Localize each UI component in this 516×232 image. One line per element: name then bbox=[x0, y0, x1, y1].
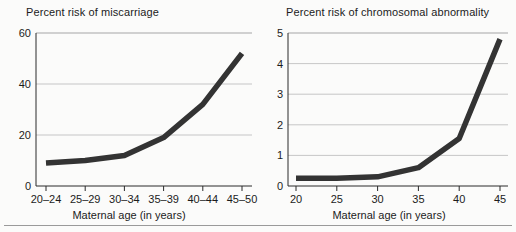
y-tick-label: 3 bbox=[277, 88, 283, 100]
x-tick-label: 40–44 bbox=[188, 193, 219, 205]
x-tick-label: 30 bbox=[371, 193, 383, 205]
x-tick-label: 45–50 bbox=[227, 193, 258, 205]
y-tick-label: 4 bbox=[277, 58, 283, 70]
plot-area-left: 020406020–2425–2930–3435–3940–4445–50 bbox=[0, 0, 258, 232]
bottom-divider bbox=[4, 225, 512, 226]
x-tick-label: 35–39 bbox=[148, 193, 179, 205]
x-tick-label: 25–29 bbox=[70, 193, 101, 205]
figure-panel-pair: Percent risk of miscarriage 020406020–24… bbox=[0, 0, 516, 232]
chart-panel-chromosomal: Percent risk of chromosomal abnormality … bbox=[258, 0, 516, 232]
x-tick-label: 25 bbox=[331, 193, 343, 205]
y-tick-label: 2 bbox=[277, 119, 283, 131]
x-axis-label-left: Maternal age (in years) bbox=[10, 208, 248, 222]
chart-panel-miscarriage: Percent risk of miscarriage 020406020–24… bbox=[0, 0, 258, 232]
y-tick-label: 0 bbox=[277, 180, 283, 192]
y-tick-label: 0 bbox=[25, 180, 31, 192]
plot-area-right: 012345202530354045 bbox=[258, 0, 516, 232]
x-axis-label-right: Maternal age (in years) bbox=[270, 208, 508, 222]
x-tick-label: 30–34 bbox=[109, 193, 140, 205]
y-tick-label: 20 bbox=[19, 129, 31, 141]
x-tick-label: 20 bbox=[290, 193, 302, 205]
x-tick-label: 20–24 bbox=[31, 193, 62, 205]
y-tick-label: 40 bbox=[19, 78, 31, 90]
x-tick-label: 40 bbox=[453, 193, 465, 205]
x-tick-label: 45 bbox=[494, 193, 506, 205]
data-series-line bbox=[46, 53, 242, 163]
y-tick-label: 60 bbox=[19, 27, 31, 39]
data-series-line bbox=[296, 39, 500, 178]
y-tick-label: 5 bbox=[277, 27, 283, 39]
x-tick-label: 35 bbox=[412, 193, 424, 205]
y-tick-label: 1 bbox=[277, 149, 283, 161]
